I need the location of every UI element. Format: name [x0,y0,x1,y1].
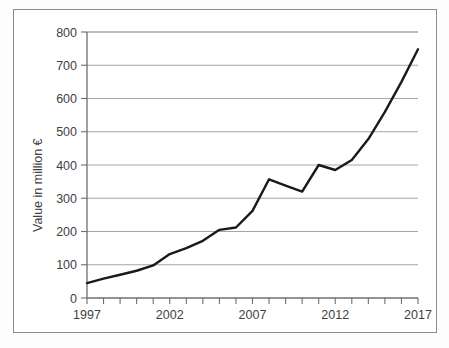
y-axis-title-group: Value in million € [31,138,45,232]
x-tick-label-1997: 1997 [73,308,101,322]
x-tick-label-2007: 2007 [239,308,267,322]
x-tick-label-2002: 2002 [156,308,184,322]
line-chart: Value in million € 800 700 600 [0,0,449,348]
data-line-value-in-million-eur [87,49,418,283]
figure-canvas: Value in million € 800 700 600 [0,0,449,348]
x-tick-label-2017: 2017 [404,308,432,322]
y-tick-label-400: 400 [56,159,77,173]
y-tick-label-500: 500 [56,125,77,139]
y-tick-label-800: 800 [56,26,77,40]
data-series-group [87,49,418,283]
y-axis: 800 700 600 500 400 300 200 100 0 [56,26,87,306]
y-tick-label-100: 100 [56,258,77,272]
y-axis-title: Value in million € [31,138,45,232]
y-tick-label-700: 700 [56,59,77,73]
x-tick-label-2012: 2012 [321,308,349,322]
x-axis: 1997 2002 2007 2012 2017 [73,298,432,322]
y-tick-label-200: 200 [56,225,77,239]
gridlines [87,32,418,265]
y-tick-label-600: 600 [56,92,77,106]
y-tick-label-0: 0 [70,292,77,306]
y-tick-label-300: 300 [56,192,77,206]
